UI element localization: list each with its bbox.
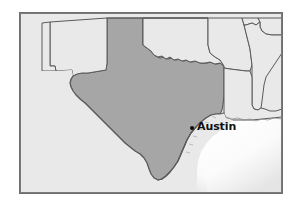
city-label-saltillo: Saltillo: [84, 192, 126, 194]
city-dot-austin: [190, 126, 194, 130]
map-figure: Austin Saltillo: [0, 0, 300, 212]
map-frame: Austin Saltillo: [19, 12, 283, 194]
city-label-austin: Austin: [197, 121, 236, 132]
map-graphic: [20, 13, 282, 193]
state-new-mexico: [50, 18, 107, 76]
